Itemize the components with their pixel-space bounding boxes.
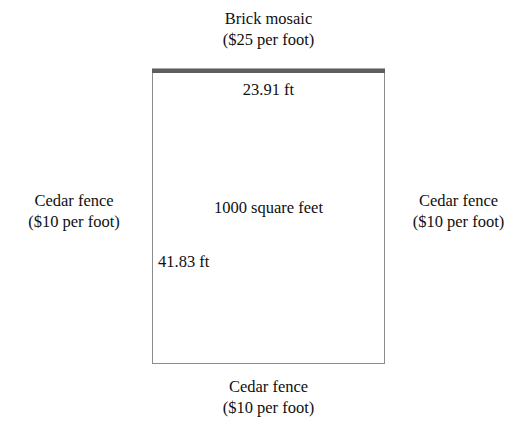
bottom-side-price: ($10 per foot) bbox=[152, 397, 385, 418]
right-side-label: Cedar fence ($10 per foot) bbox=[389, 190, 528, 232]
left-side-label: Cedar fence ($10 per foot) bbox=[0, 190, 148, 232]
right-side-price: ($10 per foot) bbox=[389, 211, 528, 232]
top-side-label: Brick mosaic ($25 per foot) bbox=[152, 8, 385, 50]
plot-width-dimension: 23.91 ft bbox=[152, 80, 385, 100]
bottom-side-material: Cedar fence bbox=[152, 376, 385, 397]
left-side-price: ($10 per foot) bbox=[0, 211, 148, 232]
plot-area-label: 1000 square feet bbox=[152, 198, 385, 218]
top-side-price: ($25 per foot) bbox=[152, 29, 385, 50]
right-side-material: Cedar fence bbox=[389, 190, 528, 211]
plot-height-dimension: 41.83 ft bbox=[158, 252, 209, 272]
left-side-material: Cedar fence bbox=[0, 190, 148, 211]
brick-mosaic-edge bbox=[152, 68, 385, 73]
garden-plot-diagram: Brick mosaic ($25 per foot) 23.91 ft 100… bbox=[0, 0, 528, 442]
bottom-side-label: Cedar fence ($10 per foot) bbox=[152, 376, 385, 418]
top-side-material: Brick mosaic bbox=[152, 8, 385, 29]
